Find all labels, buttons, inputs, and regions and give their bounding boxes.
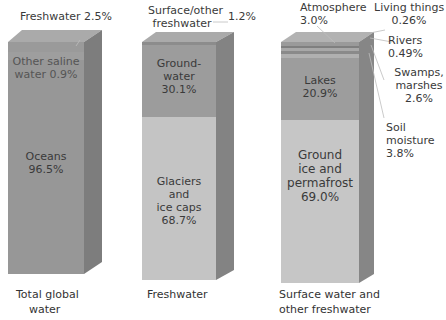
lakes-label: Lakes 20.9%	[281, 74, 359, 100]
groundwater-value: 30.1%	[142, 83, 216, 96]
groundwater-label: Ground- water 30.1%	[142, 57, 216, 96]
caption-line1: Total global	[16, 287, 79, 302]
ground-ice-value: 69.0%	[281, 190, 359, 204]
swamps-line1: Swamps,	[393, 66, 445, 79]
swamps-value: 2.6%	[393, 92, 445, 105]
atmosphere-value: 3.0%	[300, 14, 367, 27]
groundwater-line1: Ground-	[142, 57, 216, 70]
soil-line2: moisture	[386, 134, 435, 147]
glaciers-line3: ice caps	[142, 201, 216, 214]
other-saline-line1: Other saline	[8, 55, 84, 68]
oceans-label: Oceans 96.5%	[8, 150, 84, 176]
living-things-value: 0.26%	[374, 14, 444, 27]
living-things-label: Living things 0.26%	[374, 1, 444, 27]
surface-other-line2: freshwater	[148, 17, 216, 30]
rivers-value: 0.49%	[388, 47, 423, 60]
lakes-value: 20.9%	[281, 87, 359, 100]
ground-ice-line3: permafrost	[281, 176, 359, 190]
lakes-name: Lakes	[281, 74, 359, 87]
other-saline-line2: water 0.9%	[8, 68, 84, 81]
ground-ice-label: Ground ice and permafrost 69.0%	[281, 148, 359, 204]
caption-freshwater: Freshwater	[147, 287, 208, 302]
caption-surface-water: Surface water and other freshwater	[279, 287, 380, 317]
ground-ice-line1: Ground	[281, 148, 359, 162]
surface-other-freshwater-label: Surface/other freshwater	[148, 4, 216, 30]
oceans-value: 96.5%	[8, 163, 84, 176]
soil-value: 3.8%	[386, 147, 435, 160]
atmosphere-name: Atmosphere	[300, 1, 367, 14]
rivers-name: Rivers	[388, 34, 423, 47]
groundwater-line2: water	[142, 70, 216, 83]
freshwater-share-label: Freshwater 2.5%	[20, 10, 112, 23]
soil-line1: Soil	[386, 121, 435, 134]
surface-other-value: 1.2%	[228, 10, 256, 23]
swamps-label: Swamps, marshes 2.6%	[393, 66, 445, 105]
glaciers-line2: and	[142, 188, 216, 201]
atmosphere-label: Atmosphere 3.0%	[300, 1, 367, 27]
caption3-line2: other freshwater	[279, 302, 380, 317]
surface-other-line1: Surface/other	[148, 4, 216, 17]
glaciers-value: 68.7%	[142, 214, 216, 227]
oceans-name: Oceans	[8, 150, 84, 163]
caption3-line1: Surface water and	[279, 287, 380, 302]
living-things-name: Living things	[374, 1, 444, 14]
glaciers-label: Glaciers and ice caps 68.7%	[142, 175, 216, 227]
caption-line2: water	[16, 302, 79, 317]
rivers-label: Rivers 0.49%	[388, 34, 423, 60]
other-saline-label: Other saline water 0.9%	[8, 55, 84, 81]
soil-moisture-label: Soil moisture 3.8%	[386, 121, 435, 160]
glaciers-line1: Glaciers	[142, 175, 216, 188]
ground-ice-line2: ice and	[281, 162, 359, 176]
swamps-line2: marshes	[393, 79, 445, 92]
caption-total-global-water: Total global water	[16, 287, 79, 317]
